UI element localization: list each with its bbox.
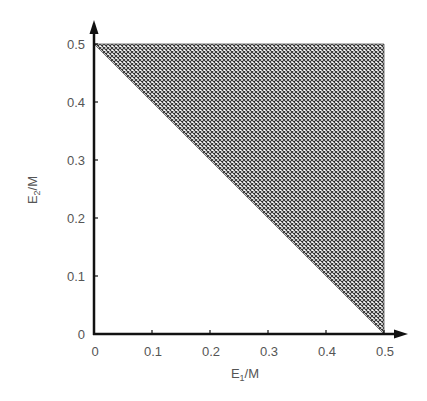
svg-text:0.3: 0.3 [67, 153, 85, 168]
svg-text:0.1: 0.1 [144, 344, 162, 359]
svg-text:0.1: 0.1 [67, 269, 85, 284]
svg-text:0.2: 0.2 [67, 211, 85, 226]
y-tick-labels: 0 0.1 0.2 0.3 0.4 0.5 [67, 37, 85, 342]
svg-text:0.2: 0.2 [202, 344, 220, 359]
y-axis-label: E2/M [25, 176, 42, 204]
svg-text:0.5: 0.5 [67, 37, 85, 52]
hatched-region [94, 44, 384, 334]
svg-text:0.5: 0.5 [376, 344, 394, 359]
svg-text:0: 0 [78, 327, 85, 342]
x-tick-labels: 0 0.1 0.2 0.3 0.4 0.5 [91, 344, 394, 359]
y-axis-arrow-icon [90, 20, 99, 34]
x-axis-label: E1/M [231, 366, 259, 383]
svg-text:0.4: 0.4 [318, 344, 336, 359]
svg-text:0: 0 [91, 344, 98, 359]
svg-text:0.3: 0.3 [260, 344, 278, 359]
chart: 0 0.1 0.2 0.3 0.4 0.5 0 0.1 0.2 0.3 0.4 … [0, 0, 427, 401]
svg-text:0.4: 0.4 [67, 95, 85, 110]
x-axis-arrow-icon [394, 330, 408, 339]
